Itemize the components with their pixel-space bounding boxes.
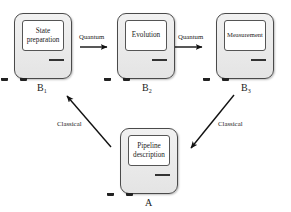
- disk-slot: [155, 174, 170, 176]
- computer-body: Evolution: [117, 13, 175, 79]
- computer-foot: [107, 193, 114, 196]
- computer-screen: State preparation: [22, 20, 64, 51]
- computer-foot: [104, 78, 111, 81]
- node-label-b3: B3: [241, 82, 251, 94]
- computer-foot: [222, 78, 229, 81]
- computer-body: State preparation: [14, 13, 72, 79]
- screen-text: Evolution: [132, 31, 160, 39]
- edge-label-b1-b2: Quantum: [79, 33, 104, 40]
- node-label-b2: B2: [142, 82, 152, 94]
- computer-body: Measurement: [216, 13, 274, 79]
- disk-slot: [49, 59, 64, 61]
- computer-foot: [20, 78, 27, 81]
- computer-foot: [126, 193, 133, 196]
- screen-text: Pipeline description: [130, 142, 168, 159]
- screen-text: State preparation: [24, 27, 62, 44]
- node-label-a: A: [145, 197, 152, 208]
- screen-text: Measurement: [227, 31, 263, 39]
- computer-screen: Measurement: [224, 20, 266, 51]
- computer-foot: [123, 78, 130, 81]
- edge-label-b2-b3: Quantum: [178, 33, 203, 40]
- computer-screen: Pipeline description: [128, 135, 170, 166]
- computer-foot: [203, 78, 210, 81]
- computer-body: Pipeline description: [120, 128, 178, 194]
- computer-screen: Evolution: [125, 20, 167, 51]
- node-label-b1: B1: [37, 82, 47, 94]
- edge-label-a-b1: Classical: [57, 120, 82, 127]
- computer-foot: [1, 78, 8, 81]
- disk-slot: [152, 59, 167, 61]
- disk-slot: [251, 59, 266, 61]
- edge-label-b3-a: Classical: [218, 120, 243, 127]
